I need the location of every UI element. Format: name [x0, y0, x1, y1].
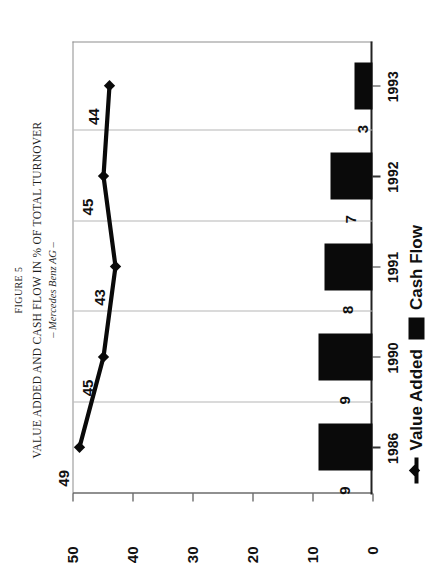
- y-axis-tick: [132, 493, 133, 501]
- bar-value-label: 3: [353, 109, 370, 149]
- y-axis-tick: [192, 493, 193, 501]
- bar-value-label: 9: [335, 470, 352, 510]
- y-axis-tick-label: 40: [123, 546, 140, 579]
- legend-label-cash-flow: Cash Flow: [406, 225, 426, 310]
- rotated-figure-canvas: FIGURE 5 VALUE ADDED AND CASH FLOW IN % …: [0, 0, 441, 579]
- line-value-label: 45: [78, 185, 95, 229]
- line-marker[interactable]: [97, 170, 108, 181]
- y-axis-tick: [312, 493, 313, 501]
- line-value-label: 49: [54, 456, 71, 500]
- x-axis-category-label: 1991: [384, 232, 400, 302]
- y-axis-tick-label: 10: [303, 546, 320, 579]
- line-marker[interactable]: [103, 80, 114, 91]
- figure-title: VALUE ADDED AND CASH FLOW IN % OF TOTAL …: [30, 0, 42, 579]
- chart-legend: Value Added Cash Flow: [406, 225, 426, 483]
- figure-label: FIGURE 5: [12, 0, 23, 579]
- line-marker[interactable]: [97, 351, 108, 362]
- y-axis-tick-label: 30: [183, 546, 200, 579]
- plot-area: [72, 41, 372, 493]
- x-axis-category-label: 1986: [384, 413, 400, 483]
- bar-value-label: 8: [338, 289, 355, 329]
- legend-item-cash-flow[interactable]: Cash Flow: [406, 225, 426, 339]
- line-value-label: 43: [90, 275, 107, 319]
- legend-item-value-added[interactable]: Value Added: [406, 349, 426, 483]
- y-axis-tick: [252, 493, 253, 501]
- y-axis-tick-label: 50: [63, 546, 80, 579]
- line-marker[interactable]: [109, 260, 120, 271]
- line-marker[interactable]: [73, 441, 84, 452]
- legend-label-value-added: Value Added: [406, 349, 426, 450]
- filled-square-icon: [408, 317, 424, 339]
- y-axis-tick-label: 20: [243, 546, 260, 579]
- line-marker-icon: [414, 457, 418, 483]
- x-axis-category-label: 1992: [384, 142, 400, 212]
- line-value-label: 44: [84, 94, 101, 138]
- y-axis-tick: [72, 493, 73, 501]
- x-axis-category-label: 1993: [384, 51, 400, 121]
- line-value-label: 45: [78, 365, 95, 409]
- x-axis-category-label: 1990: [384, 322, 400, 392]
- y-axis-tick: [372, 493, 373, 501]
- bar-value-label: 7: [341, 199, 358, 239]
- y-axis-tick-label: 0: [363, 546, 380, 579]
- value-added-line: [73, 40, 373, 492]
- bar-value-label: 9: [335, 380, 352, 420]
